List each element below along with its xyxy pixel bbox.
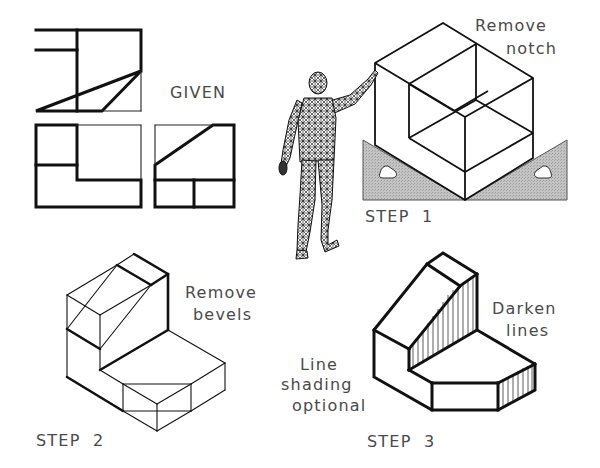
top-view (36, 30, 141, 111)
step3-label: STEP 3 (367, 432, 435, 451)
isometric-sketch-figure: GIVEN Remove notch STEP 1 (0, 0, 600, 468)
front-view (36, 125, 141, 207)
step3-note-line2: lines (506, 321, 549, 340)
step2-label: STEP 2 (36, 431, 104, 450)
shading-note-line2: shading (281, 375, 353, 394)
step1-note-line1: Remove (475, 16, 547, 35)
step1-label: STEP 1 (365, 207, 433, 226)
step3-panel: Darken lines Line shading optional STEP … (281, 253, 557, 451)
side-view (155, 125, 234, 207)
step2-note-line2: bevels (193, 305, 252, 324)
shading-note-line1: Line (300, 355, 338, 374)
step2-dark-lines (67, 254, 168, 411)
step3-note-line1: Darken (492, 299, 557, 318)
step2-panel: Remove bevels STEP 2 (36, 254, 257, 450)
shading-note-line3: optional (292, 396, 366, 415)
given-views: GIVEN (36, 30, 234, 207)
step1-note-line2: notch (506, 39, 557, 58)
given-label: GIVEN (170, 83, 226, 102)
step1-panel: Remove notch STEP 1 (363, 16, 567, 226)
step2-note-line1: Remove (185, 283, 257, 302)
